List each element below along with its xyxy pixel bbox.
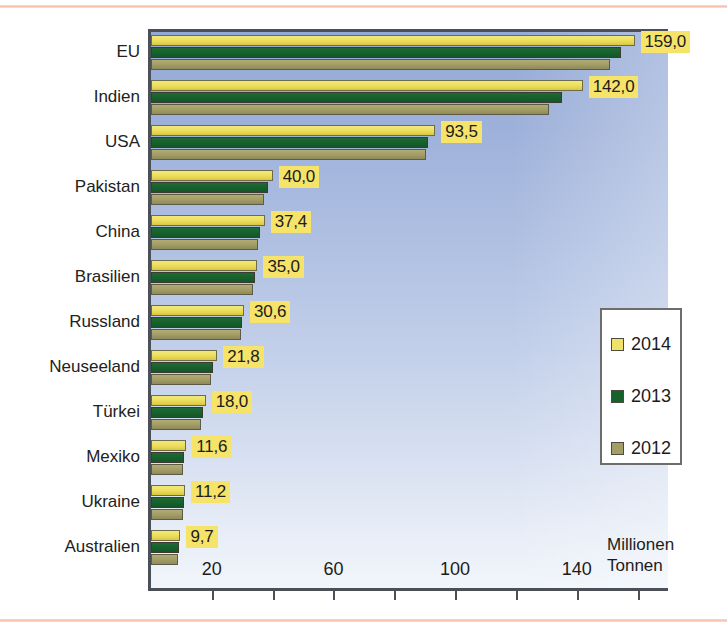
bar-pakistan-2014 xyxy=(151,170,273,181)
bar-eu-2013 xyxy=(151,47,621,58)
x-tick-120 xyxy=(516,591,518,600)
bar-türkei-2013 xyxy=(151,407,203,418)
category-label-türkei: Türkei xyxy=(0,402,140,422)
category-label-china: China xyxy=(0,222,140,242)
bar-row xyxy=(151,194,668,205)
bar-eu-2012 xyxy=(151,59,610,70)
x-tick-20 xyxy=(212,591,214,600)
bar-ukraine-2014 xyxy=(151,485,185,496)
bar-brasilien-2014 xyxy=(151,260,257,271)
bar-row xyxy=(151,125,668,136)
value-label-eu: 159,0 xyxy=(641,31,691,53)
value-label-ukraine: 11,2 xyxy=(191,481,230,503)
bar-ukraine-2013 xyxy=(151,497,184,508)
bar-türkei-2014 xyxy=(151,395,206,406)
bar-chart: 159,0142,093,540,037,435,030,621,818,011… xyxy=(148,29,668,591)
value-label-usa: 93,5 xyxy=(441,121,481,143)
category-label-russland: Russland xyxy=(0,312,140,332)
category-label-indien: Indien xyxy=(0,87,140,107)
bar-neuseeland-2014 xyxy=(151,350,217,361)
bar-row xyxy=(151,374,668,385)
value-label-russland: 30,6 xyxy=(250,301,290,323)
category-label-ukraine: Ukraine xyxy=(0,492,140,512)
category-axis-labels: EUIndienUSAPakistanChinaBrasilienRusslan… xyxy=(0,29,140,591)
bar-row xyxy=(151,509,668,520)
legend-label-2014: 2014 xyxy=(631,334,671,355)
bar-neuseeland-2013 xyxy=(151,362,213,373)
bar-indien-2013 xyxy=(151,92,562,103)
bar-row xyxy=(151,59,668,70)
bar-mexiko-2013 xyxy=(151,452,184,463)
bar-row xyxy=(151,329,668,340)
category-label-brasilien: Brasilien xyxy=(0,267,140,287)
bar-china-2012 xyxy=(151,239,258,250)
bar-row xyxy=(151,47,668,58)
bar-row xyxy=(151,227,668,238)
value-label-neuseeland: 21,8 xyxy=(223,346,263,368)
x-tick-60 xyxy=(333,591,335,600)
bar-row xyxy=(151,104,668,115)
x-tick-40 xyxy=(273,591,275,600)
value-label-australien: 9,7 xyxy=(186,526,217,548)
value-label-türkei: 18,0 xyxy=(212,391,252,413)
legend-item-2012: 2012 xyxy=(611,438,671,459)
bar-row xyxy=(151,182,668,193)
legend-swatch-icon-2014 xyxy=(611,338,624,351)
bottom-rule xyxy=(0,619,727,622)
legend-label-2012: 2012 xyxy=(631,438,671,459)
bar-row xyxy=(151,317,668,328)
x-axis-line xyxy=(148,588,668,591)
bar-pakistan-2013 xyxy=(151,182,268,193)
bar-groups: 159,0142,093,540,037,435,030,621,818,011… xyxy=(151,32,668,572)
bar-australien-2013 xyxy=(151,542,179,553)
bar-china-2014 xyxy=(151,215,265,226)
bar-row xyxy=(151,260,668,271)
bar-australien-2014 xyxy=(151,530,180,541)
value-label-indien: 142,0 xyxy=(589,76,639,98)
legend-swatch-icon-2012 xyxy=(611,442,624,455)
category-label-usa: USA xyxy=(0,132,140,152)
bar-russland-2014 xyxy=(151,305,244,316)
x-tick-80 xyxy=(394,591,396,600)
bar-row xyxy=(151,239,668,250)
legend-item-2013: 2013 xyxy=(611,386,671,407)
x-tick-label-60: 60 xyxy=(323,559,343,580)
bar-row xyxy=(151,530,668,541)
x-tick-label-140: 140 xyxy=(562,559,592,580)
legend-swatch-icon-2013 xyxy=(611,390,624,403)
bar-row xyxy=(151,305,668,316)
bar-eu-2014 xyxy=(151,35,635,46)
bar-brasilien-2013 xyxy=(151,272,255,283)
x-tick-label-100: 100 xyxy=(440,559,470,580)
axis-unit-line-1: Millionen xyxy=(607,534,674,555)
legend-label-2013: 2013 xyxy=(631,386,671,407)
bar-mexiko-2012 xyxy=(151,464,183,475)
bar-china-2013 xyxy=(151,227,260,238)
value-label-brasilien: 35,0 xyxy=(263,256,303,278)
value-label-pakistan: 40,0 xyxy=(279,166,319,188)
bar-mexiko-2014 xyxy=(151,440,186,451)
category-label-neuseeland: Neuseeland xyxy=(0,357,140,377)
bar-row xyxy=(151,542,668,553)
x-tick-160 xyxy=(638,591,640,600)
x-tick-label-20: 20 xyxy=(202,559,222,580)
x-tick-140 xyxy=(577,591,579,600)
axis-unit-caption: Millionen Tonnen xyxy=(607,534,674,576)
bar-brasilien-2012 xyxy=(151,284,253,295)
bar-row xyxy=(151,137,668,148)
bar-neuseeland-2012 xyxy=(151,374,211,385)
bar-ukraine-2012 xyxy=(151,509,183,520)
bar-usa-2013 xyxy=(151,137,428,148)
bar-row xyxy=(151,272,668,283)
chart-legend: 201420132012 xyxy=(600,308,682,465)
bar-russland-2013 xyxy=(151,317,242,328)
value-label-mexiko: 11,6 xyxy=(192,436,231,458)
bar-row xyxy=(151,170,668,181)
bar-row xyxy=(151,419,668,430)
bar-usa-2014 xyxy=(151,125,435,136)
bar-indien-2014 xyxy=(151,80,583,91)
category-label-australien: Australien xyxy=(0,537,140,557)
bar-pakistan-2012 xyxy=(151,194,264,205)
x-tick-100 xyxy=(455,591,457,600)
category-label-mexiko: Mexiko xyxy=(0,447,140,467)
